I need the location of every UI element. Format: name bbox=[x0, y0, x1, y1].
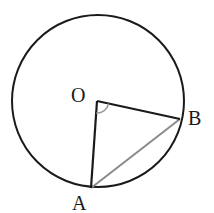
label-o: O bbox=[71, 84, 85, 106]
label-a: A bbox=[72, 192, 87, 213]
circle-diagram: O B A bbox=[0, 0, 214, 213]
radius-oa bbox=[91, 101, 97, 188]
radius-ob bbox=[97, 101, 180, 119]
angle-arc-aob bbox=[96, 104, 109, 114]
label-b: B bbox=[188, 107, 201, 129]
